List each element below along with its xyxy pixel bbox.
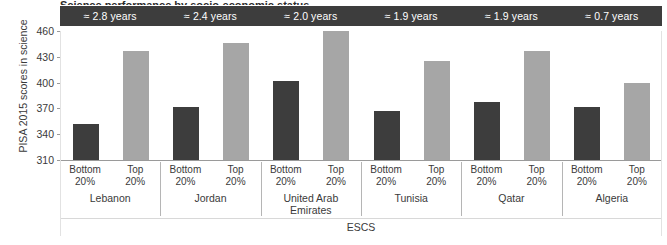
figure-bottom-rule bbox=[60, 218, 662, 219]
category-tick-line2: 20% bbox=[175, 176, 195, 187]
figure-left-rule bbox=[60, 31, 61, 236]
category-tick-bottom: Bottom 20% bbox=[463, 164, 509, 187]
bar-top-20[interactable] bbox=[123, 51, 149, 160]
category-tick-top: Top 20% bbox=[313, 164, 359, 187]
category-tick-top: Top 20% bbox=[514, 164, 560, 187]
category-tick-line1: Bottom bbox=[69, 164, 101, 175]
category-tick-line2: 20% bbox=[276, 176, 296, 187]
category-name: Jordan bbox=[194, 193, 226, 205]
chart-title-clipped: Science performance by socio-economic st… bbox=[60, 0, 480, 5]
bar-top-20[interactable] bbox=[524, 51, 550, 160]
bar-group bbox=[462, 31, 562, 160]
bar-group bbox=[562, 31, 662, 160]
category-axis: Bottom 20% Top 20% Lebanon Bottom 20% To… bbox=[60, 162, 662, 218]
category-tick-line1: Bottom bbox=[370, 164, 402, 175]
years-gap-cell: ≈ 0.7 years bbox=[562, 10, 662, 22]
category-tick-line2: 20% bbox=[226, 176, 246, 187]
category-tick-line1: Top bbox=[228, 164, 244, 175]
chart-figure: Science performance by socio-economic st… bbox=[0, 0, 667, 245]
category-name: United Arab Emirates bbox=[269, 193, 353, 216]
category-tick-line1: Top bbox=[629, 164, 645, 175]
bar-top-20[interactable] bbox=[323, 31, 349, 160]
category-group-united-arab-emirates: Bottom 20% Top 20% United Arab Emirates bbox=[261, 162, 361, 218]
category-ticks: Bottom 20% Top 20% bbox=[461, 162, 561, 187]
bar-group bbox=[161, 31, 261, 160]
category-group-algeria: Bottom 20% Top 20% Algeria bbox=[562, 162, 662, 218]
bar-bottom-20[interactable] bbox=[374, 111, 400, 160]
category-group-tunisia: Bottom 20% Top 20% Tunisia bbox=[361, 162, 461, 218]
category-tick-bottom: Bottom 20% bbox=[564, 164, 610, 187]
category-tick-line1: Bottom bbox=[571, 164, 603, 175]
bar-top-20[interactable] bbox=[424, 61, 450, 160]
category-tick-line1: Top bbox=[528, 164, 544, 175]
category-tick-line2: 20% bbox=[75, 176, 95, 187]
category-group-lebanon: Bottom 20% Top 20% Lebanon bbox=[60, 162, 160, 218]
category-tick-line1: Bottom bbox=[270, 164, 302, 175]
category-tick-line2: 20% bbox=[376, 176, 396, 187]
bar-bottom-20[interactable] bbox=[574, 107, 600, 160]
category-ticks: Bottom 20% Top 20% bbox=[562, 162, 662, 187]
bar-bottom-20[interactable] bbox=[273, 81, 299, 160]
x-axis-title: ESCS bbox=[60, 221, 662, 233]
category-tick-top: Top 20% bbox=[413, 164, 459, 187]
category-tick-line2: 20% bbox=[627, 176, 647, 187]
y-axis-title: PISA 2015 scores in science bbox=[17, 1, 29, 171]
category-tick-line1: Top bbox=[328, 164, 344, 175]
category-ticks: Bottom 20% Top 20% bbox=[60, 162, 160, 187]
bar-bottom-20[interactable] bbox=[474, 102, 500, 160]
category-ticks: Bottom 20% Top 20% bbox=[361, 162, 461, 187]
category-name: Tunisia bbox=[394, 193, 427, 205]
category-tick-line1: Bottom bbox=[170, 164, 202, 175]
category-tick-line1: Bottom bbox=[471, 164, 503, 175]
category-group-jordan: Bottom 20% Top 20% Jordan bbox=[160, 162, 260, 218]
category-tick-line1: Top bbox=[428, 164, 444, 175]
bar-bottom-20[interactable] bbox=[73, 124, 99, 160]
category-name: Qatar bbox=[498, 193, 524, 205]
category-tick-top: Top 20% bbox=[112, 164, 158, 187]
years-gap-band: ≈ 2.8 years ≈ 2.4 years ≈ 2.0 years ≈ 1.… bbox=[60, 6, 662, 26]
bar-group bbox=[261, 31, 361, 160]
bar-series-container bbox=[61, 31, 662, 160]
category-tick-line1: Top bbox=[127, 164, 143, 175]
bar-group bbox=[362, 31, 462, 160]
category-name: Algeria bbox=[595, 193, 628, 205]
category-tick-bottom: Bottom 20% bbox=[162, 164, 208, 187]
category-name: Lebanon bbox=[90, 193, 131, 205]
years-gap-cell: ≈ 2.0 years bbox=[261, 10, 361, 22]
years-gap-cell: ≈ 2.4 years bbox=[160, 10, 260, 22]
bar-bottom-20[interactable] bbox=[173, 107, 199, 160]
category-tick-line2: 20% bbox=[426, 176, 446, 187]
years-gap-cell: ≈ 1.9 years bbox=[461, 10, 561, 22]
years-gap-cell: ≈ 1.9 years bbox=[361, 10, 461, 22]
category-tick-line2: 20% bbox=[577, 176, 597, 187]
bar-group bbox=[61, 31, 161, 160]
category-tick-bottom: Bottom 20% bbox=[263, 164, 309, 187]
category-tick-bottom: Bottom 20% bbox=[363, 164, 409, 187]
category-ticks: Bottom 20% Top 20% bbox=[160, 162, 260, 187]
category-tick-line2: 20% bbox=[125, 176, 145, 187]
category-ticks: Bottom 20% Top 20% bbox=[261, 162, 361, 187]
years-gap-cell: ≈ 2.8 years bbox=[60, 10, 160, 22]
category-tick-top: Top 20% bbox=[213, 164, 259, 187]
category-tick-line2: 20% bbox=[476, 176, 496, 187]
figure-right-rule bbox=[661, 31, 662, 236]
bar-top-20[interactable] bbox=[624, 83, 650, 160]
bar-top-20[interactable] bbox=[223, 43, 249, 160]
category-tick-bottom: Bottom 20% bbox=[62, 164, 108, 187]
category-tick-line2: 20% bbox=[527, 176, 547, 187]
category-group-qatar: Bottom 20% Top 20% Qatar bbox=[461, 162, 561, 218]
plot-area: 460 430 400 370 340 310 bbox=[60, 31, 662, 161]
category-tick-line2: 20% bbox=[326, 176, 346, 187]
category-tick-top: Top 20% bbox=[614, 164, 660, 187]
